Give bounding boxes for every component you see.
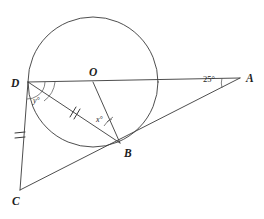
angle-label-25deg: 25°	[203, 74, 215, 84]
segment-CA	[20, 78, 240, 190]
point-label-A: A	[245, 72, 254, 84]
segment-DC	[20, 82, 28, 190]
angle-arc-D-outer	[44, 82, 55, 101]
point-label-C: C	[12, 195, 20, 207]
geometry-diagram: A B C D O 25° x° y°	[0, 0, 264, 219]
point-label-B: B	[123, 147, 132, 159]
angle-arc-A	[221, 78, 222, 88]
angle-label-x: x°	[95, 115, 104, 124]
tick-segment-DC	[15, 132, 25, 138]
angle-label-y: y°	[32, 96, 41, 105]
point-label-O: O	[89, 66, 97, 78]
point-label-D: D	[10, 77, 20, 89]
